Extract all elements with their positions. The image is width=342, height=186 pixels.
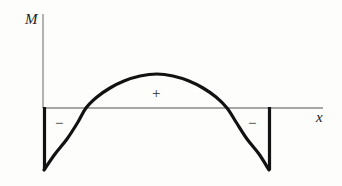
horizontal-axis-label: x xyxy=(316,110,323,125)
negative-region-sign-left: − xyxy=(55,116,63,131)
diagram-canvas xyxy=(0,0,342,186)
vertical-axis-label: M xyxy=(25,12,38,27)
positive-region-sign: + xyxy=(152,86,160,101)
bending-moment-diagram-figure: M x + − − xyxy=(0,0,342,186)
negative-region-sign-right: − xyxy=(248,116,256,131)
